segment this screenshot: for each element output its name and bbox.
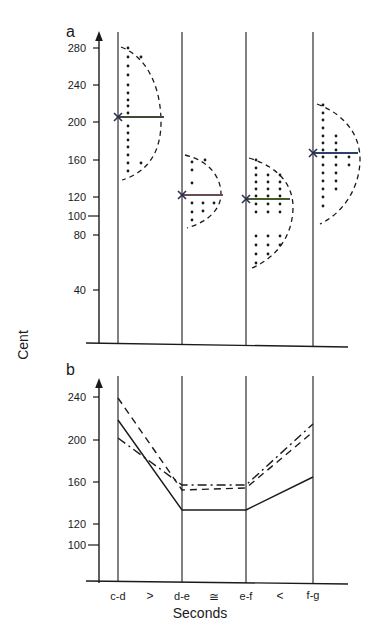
xtick-label-d-e: d-e [174, 590, 190, 602]
panel-b-category-lines [118, 376, 313, 584]
relation-symbol-3: < [276, 589, 283, 603]
panel-a-group-c-d [114, 47, 164, 180]
panel-a-group-e-f [242, 158, 293, 268]
scientific-figure: a 280 240 200 160 120 100 80 40 [0, 0, 368, 643]
y-axis-title: Cent [15, 330, 31, 360]
panel-a-ytick-120: 120 [68, 191, 86, 203]
panel-a: a 280 240 200 160 120 100 80 40 [66, 23, 360, 347]
panel-b-ytick-120: 120 [68, 518, 86, 530]
series-line-solid [118, 420, 313, 510]
xtick-label-f-g: f-g [307, 589, 320, 601]
x-axis-labels: c-d > d-e ≅ e-f < f-g [110, 589, 319, 604]
panel-b-ticks [88, 397, 99, 545]
panel-a-ytick-280: 280 [68, 42, 86, 54]
x-axis-title: Seconds [173, 605, 227, 621]
panel-a-ticks [88, 48, 99, 290]
dot-cluster-c-d [127, 47, 143, 173]
panel-b-ytick-200: 200 [68, 434, 86, 446]
dot-cluster-e-f [255, 159, 282, 265]
xtick-label-e-f: e-f [240, 590, 254, 602]
panel-b-ytick-100: 100 [68, 539, 86, 551]
panel-a-group-f-g [309, 104, 360, 224]
relation-symbol-1: > [146, 589, 153, 603]
panel-a-ytick-80: 80 [74, 229, 86, 241]
panel-b-ytick-160: 160 [68, 476, 86, 488]
envelope-curve-d-e [185, 155, 221, 228]
panel-a-ytick-160: 160 [68, 154, 86, 166]
series-line-dashdot [118, 424, 313, 485]
panel-a-ytick-240: 240 [68, 79, 86, 91]
relation-symbol-2: ≅ [209, 590, 219, 604]
panel-a-group-d-e [178, 155, 223, 228]
figure-container: a 280 240 200 160 120 100 80 40 [0, 0, 368, 643]
panel-a-category-lines [118, 32, 313, 346]
panel-b-x-axis [86, 581, 348, 584]
panel-b-ytick-240: 240 [68, 391, 86, 403]
panel-a-label: a [66, 23, 75, 40]
panel-a-y-axis [95, 31, 103, 343]
series-line-dashed [118, 398, 313, 490]
xtick-label-c-d: c-d [110, 590, 125, 602]
panel-b: b 240 200 160 120 100 [66, 361, 348, 584]
dot-cluster-f-g [322, 104, 351, 208]
dot-cluster-d-e [191, 159, 216, 222]
panel-a-ytick-200: 200 [68, 116, 86, 128]
panel-a-x-axis [86, 343, 348, 347]
panel-b-y-axis [95, 378, 103, 583]
panel-b-label: b [66, 361, 75, 378]
panel-a-ytick-40: 40 [74, 284, 86, 296]
panel-a-ytick-100: 100 [68, 210, 86, 222]
